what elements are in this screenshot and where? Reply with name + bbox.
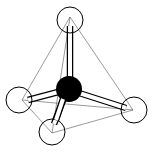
outer-atoms bbox=[6, 7, 147, 145]
edge-left-bottom bbox=[22, 100, 52, 133]
tetrahedral-molecule-diagram bbox=[0, 0, 153, 152]
edge-bottom-right bbox=[52, 110, 133, 133]
bonds bbox=[28, 26, 126, 124]
tetrahedron-edges bbox=[22, 17, 133, 133]
